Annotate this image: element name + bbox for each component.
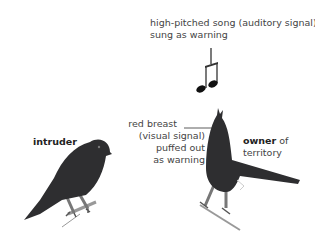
intruder-bird-icon <box>24 140 112 227</box>
music-note-icon <box>195 48 219 94</box>
intruder-label: intruder <box>33 136 77 148</box>
red-breast-label: red breast (visual signal) puffed out as… <box>120 118 205 166</box>
breast-line-3: puffed out <box>120 142 205 154</box>
owner-bold: owner <box>243 135 276 146</box>
owner-rest: of <box>276 135 288 146</box>
breast-line-1: red breast <box>120 118 205 130</box>
breast-line-2: (visual signal) <box>120 130 205 142</box>
owner-territory: territory <box>243 147 282 158</box>
owner-bird-icon <box>200 108 300 230</box>
breast-line-4: as warning <box>120 154 205 166</box>
owner-label: owner of territory <box>243 135 313 159</box>
